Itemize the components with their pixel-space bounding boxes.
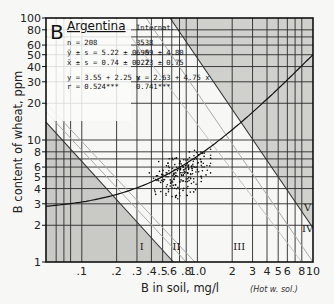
data-point — [186, 195, 188, 197]
data-point — [203, 166, 205, 168]
data-point — [176, 166, 178, 168]
data-point — [165, 176, 167, 178]
data-point — [194, 166, 196, 168]
data-point — [209, 165, 211, 167]
data-point — [174, 188, 176, 190]
data-point — [195, 184, 197, 186]
data-point — [160, 182, 162, 184]
data-point — [210, 172, 212, 174]
data-point — [160, 191, 162, 193]
data-point — [164, 179, 166, 181]
y-tick-label: 20 — [27, 97, 41, 110]
data-point — [157, 178, 159, 180]
data-point — [179, 192, 181, 194]
data-point — [194, 150, 196, 152]
data-point — [172, 168, 174, 170]
data-point — [185, 167, 187, 169]
data-point — [172, 158, 174, 160]
x-tick-label: 8 — [298, 265, 305, 278]
data-point — [198, 154, 200, 156]
data-point — [179, 166, 181, 168]
data-point — [200, 181, 202, 183]
plot-svg: .1.2.3.4.5.6.81.023456810 12345681020304… — [0, 0, 334, 304]
data-point — [193, 178, 195, 180]
data-point — [193, 191, 195, 193]
data-point — [201, 165, 203, 167]
data-point — [210, 157, 212, 159]
y-axis-title: B content of wheat, ppm — [11, 71, 25, 213]
x-axis-ticks: .1.2.3.4.5.6.81.023456810 — [77, 265, 320, 278]
data-point — [173, 170, 175, 172]
stat-y-mean-intl: 6.09 ± 4.80 — [136, 48, 184, 57]
data-point — [196, 152, 198, 154]
data-point — [154, 191, 156, 193]
data-point — [177, 187, 179, 189]
data-point — [188, 165, 190, 167]
x-tick-label: .4 — [146, 265, 157, 278]
y-tick-label: 1 — [34, 256, 41, 269]
y-tick-label: 2 — [34, 219, 41, 232]
data-point — [166, 186, 168, 188]
stat-regression-intl: y = 2.63 + 4.75 x — [136, 73, 210, 82]
y-tick-label: 30 — [27, 76, 41, 89]
x-tick-label: 5 — [275, 265, 282, 278]
data-point — [203, 156, 205, 158]
x-tick-label: .2 — [111, 265, 122, 278]
y-tick-label: 8 — [34, 146, 41, 159]
data-point — [166, 165, 168, 167]
data-point — [162, 174, 164, 176]
zone-label-i: I — [140, 241, 144, 252]
data-point — [176, 158, 178, 160]
data-point — [173, 179, 175, 181]
data-point — [188, 177, 190, 179]
data-point — [196, 166, 198, 168]
data-point — [185, 159, 187, 161]
data-point — [193, 181, 195, 183]
x-tick-label: .3 — [132, 265, 143, 278]
y-tick-label: 60 — [27, 39, 41, 52]
data-point — [157, 175, 159, 177]
data-point — [165, 193, 167, 195]
y-tick-label: 80 — [27, 24, 41, 37]
data-point — [180, 172, 182, 174]
x-tick-label: 10 — [306, 265, 320, 278]
data-point — [192, 163, 194, 165]
data-point — [188, 167, 190, 169]
data-point — [171, 187, 173, 189]
data-point — [195, 171, 197, 173]
data-point — [158, 161, 160, 163]
data-point — [210, 162, 212, 164]
data-point — [172, 159, 174, 161]
panel-letter: B — [50, 20, 64, 44]
chart-title: Argentina — [67, 19, 126, 33]
zone-label-ii: II — [173, 241, 181, 252]
data-point — [210, 154, 212, 156]
data-point — [171, 181, 173, 183]
data-point — [201, 177, 203, 179]
data-point — [173, 173, 175, 175]
data-point — [186, 178, 188, 180]
data-point — [204, 152, 206, 154]
x-tick-label: 2 — [229, 265, 236, 278]
data-point — [201, 166, 203, 168]
data-point — [159, 171, 161, 173]
zone-labels: IIIIIIIVV — [140, 202, 314, 252]
data-point — [183, 174, 185, 176]
data-point — [183, 169, 185, 171]
data-point — [183, 159, 185, 161]
x-tick-label: .6 — [167, 265, 178, 278]
data-point — [202, 153, 204, 155]
data-point — [169, 173, 171, 175]
data-point — [149, 172, 151, 174]
intl-header: Internat. — [136, 23, 175, 32]
data-point — [167, 176, 169, 178]
data-point — [175, 195, 177, 197]
data-point — [186, 188, 188, 190]
y-tick-label: 6 — [34, 161, 41, 174]
data-point — [187, 186, 189, 188]
zone-label-iv: IV — [302, 223, 314, 234]
y-tick-label: 40 — [27, 61, 41, 74]
data-point — [187, 159, 189, 161]
data-point — [195, 189, 197, 191]
data-point — [180, 169, 182, 171]
